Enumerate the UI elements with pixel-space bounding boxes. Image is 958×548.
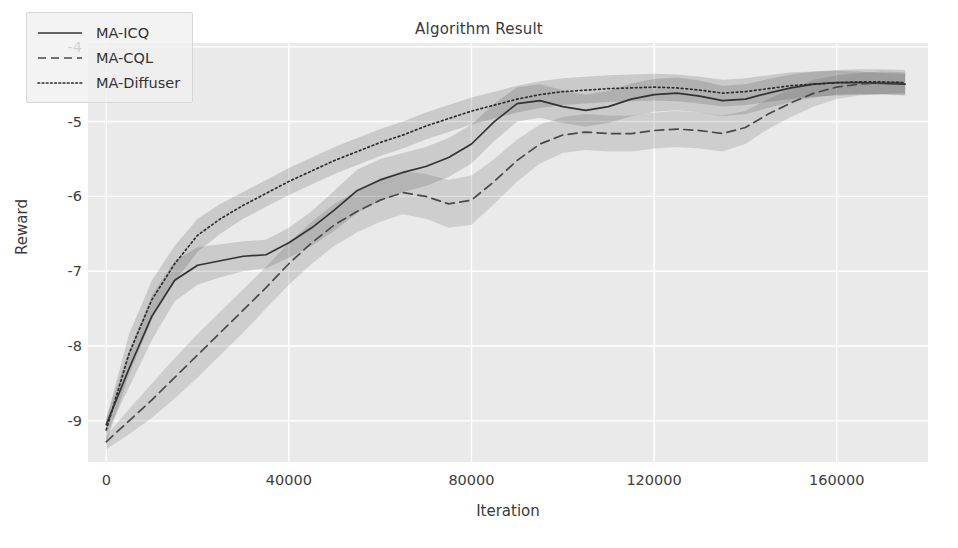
chart-canvas bbox=[88, 43, 928, 462]
legend-label: MA-ICQ bbox=[96, 25, 149, 41]
y-tick-label: -8 bbox=[38, 338, 82, 354]
legend-item[interactable]: MA-Diffuser bbox=[37, 70, 180, 95]
y-axis-ticks: -4-5-6-7-8-9 bbox=[26, 43, 82, 462]
x-tick-label: 120000 bbox=[626, 472, 681, 488]
legend-line-dotted-icon bbox=[37, 77, 83, 89]
y-tick-label: -7 bbox=[38, 263, 82, 279]
legend-label: MA-Diffuser bbox=[96, 75, 180, 91]
legend-line-dashed-icon bbox=[37, 52, 83, 64]
x-axis-ticks: 04000080000120000160000 bbox=[88, 472, 928, 494]
plot-area bbox=[88, 43, 928, 462]
chart-legend: MA-ICQ MA-CQL MA-Diffuser bbox=[26, 12, 193, 103]
legend-item[interactable]: MA-ICQ bbox=[37, 20, 180, 45]
y-tick-label: -9 bbox=[38, 413, 82, 429]
legend-label: MA-CQL bbox=[96, 50, 153, 66]
x-axis-label: Iteration bbox=[88, 502, 928, 520]
chart-figure: Algorithm Result Reward -4-5-6-7-8-9 040… bbox=[0, 0, 958, 548]
y-tick-label: -6 bbox=[38, 188, 82, 204]
y-tick-label: -5 bbox=[38, 114, 82, 130]
x-tick-label: 160000 bbox=[809, 472, 864, 488]
x-tick-label: 40000 bbox=[266, 472, 312, 488]
legend-item[interactable]: MA-CQL bbox=[37, 45, 180, 70]
x-tick-label: 80000 bbox=[448, 472, 494, 488]
x-tick-label: 0 bbox=[102, 472, 111, 488]
legend-line-solid-icon bbox=[37, 27, 83, 39]
